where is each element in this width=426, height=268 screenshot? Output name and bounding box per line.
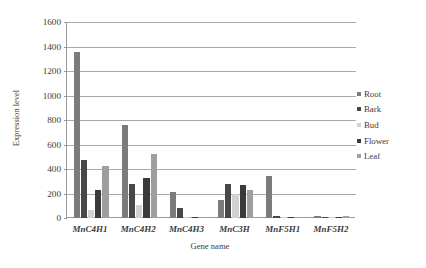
bar <box>102 166 108 218</box>
bar-chart: Expression level 02004006008001000120014… <box>0 0 426 268</box>
bar-groups <box>67 22 356 218</box>
y-axis-tick-label: 1200 <box>27 66 61 76</box>
bar-group <box>122 22 157 218</box>
legend-item[interactable]: Bud <box>357 117 421 133</box>
bar <box>336 217 342 218</box>
x-axis-tick-label: MnF5H1 <box>259 224 307 234</box>
legend-swatch-icon <box>357 139 361 143</box>
bar <box>343 216 349 218</box>
legend-label: Bark <box>364 104 381 114</box>
bar <box>225 184 231 218</box>
bar <box>273 216 279 218</box>
legend-item[interactable]: Bark <box>357 102 421 118</box>
bar <box>170 192 176 218</box>
x-axis-title: Gene name <box>160 241 260 251</box>
x-axis-tick-label: MnF5H2 <box>307 224 355 234</box>
y-axis-title: Expression level <box>9 62 23 174</box>
bar <box>199 217 205 218</box>
legend-swatch-icon <box>357 92 361 96</box>
x-axis-tick-label: MnC4H1 <box>66 224 114 234</box>
bar-group <box>314 22 349 218</box>
legend-item[interactable]: Root <box>357 86 421 102</box>
legend-item[interactable]: Flower <box>357 133 421 149</box>
bar <box>136 205 142 218</box>
bar <box>151 154 157 218</box>
bar <box>232 194 238 219</box>
legend-swatch-icon <box>357 154 361 158</box>
bar-group <box>170 22 205 218</box>
bar <box>322 217 328 218</box>
legend-item[interactable]: Leaf <box>357 148 421 164</box>
bar-group <box>266 22 301 218</box>
x-axis-tick-label: MnC4H2 <box>114 224 162 234</box>
bar <box>329 217 335 218</box>
legend-label: Flower <box>364 136 389 146</box>
bar <box>240 185 246 218</box>
bar <box>95 190 101 218</box>
plot-area <box>66 22 355 218</box>
y-axis-tick-label: 1000 <box>27 91 61 101</box>
bar <box>218 200 224 218</box>
x-axis-tick-label: MnC4H3 <box>162 224 210 234</box>
y-axis-tick-label: 800 <box>27 115 61 125</box>
bar <box>184 217 190 218</box>
bar <box>129 184 135 218</box>
bar <box>74 52 80 218</box>
y-axis-tick-label: 400 <box>27 164 61 174</box>
bar <box>88 210 94 218</box>
bar-group <box>218 22 253 218</box>
bar <box>288 217 294 218</box>
x-axis-tick-label: MnC3H <box>211 224 259 234</box>
y-axis-tick-label: 0 <box>27 213 61 223</box>
legend-label: Bud <box>364 120 379 130</box>
bar <box>177 208 183 218</box>
bar <box>192 217 198 218</box>
y-axis-tick-label: 1600 <box>27 17 61 27</box>
bar <box>247 190 253 218</box>
bar <box>122 125 128 218</box>
legend-swatch-icon <box>357 123 361 127</box>
chart-legend: RootBarkBudFlowerLeaf <box>357 86 421 164</box>
bar <box>314 216 320 218</box>
y-axis-tick-label: 1400 <box>27 42 61 52</box>
bar <box>143 178 149 218</box>
y-axis-tick-label: 200 <box>27 189 61 199</box>
y-axis-title-label: Expression level <box>11 90 21 146</box>
bar <box>81 160 87 218</box>
legend-swatch-icon <box>357 107 361 111</box>
bar <box>281 217 287 218</box>
y-axis-tick-mark <box>64 218 67 219</box>
bar <box>266 176 272 218</box>
legend-label: Leaf <box>364 151 380 161</box>
legend-label: Root <box>364 89 381 99</box>
y-axis-tick-label: 600 <box>27 140 61 150</box>
x-axis-title-label: Gene name <box>191 241 230 251</box>
bar <box>295 217 301 218</box>
bar-group <box>74 22 109 218</box>
